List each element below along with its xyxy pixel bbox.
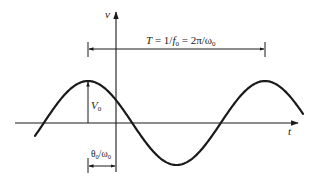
v-axis-label: v — [105, 8, 110, 20]
phase-dimension — [88, 158, 115, 173]
period-label: T = 1/f0 = 2π/ω0 — [146, 34, 216, 48]
sinusoid-diagram: v t T = 1/f0 = 2π/ω0 V0 θ0/ω0 — [0, 0, 315, 180]
phase-label: θ0/ω0 — [91, 149, 111, 160]
t-axis-label: t — [288, 125, 292, 137]
amplitude-label: V0 — [91, 99, 102, 113]
